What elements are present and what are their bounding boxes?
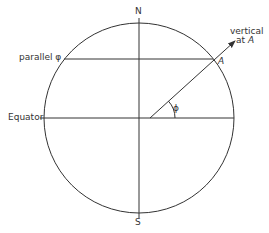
vertical-label-line2: at A [236,35,254,45]
point-a-label: A [218,56,224,66]
vertical-at-a-arrow [150,41,235,118]
vertical-label-point: A [248,35,254,45]
angle-phi-label: ϕ [173,103,179,113]
equator-label: Equator [8,112,43,122]
south-label: S [135,217,141,227]
north-label: N [135,6,142,16]
vertical-label-prefix: at [236,35,248,45]
latitude-diagram: N S parallel φ Equator vertical at A A ϕ [0,0,269,233]
parallel-label: parallel φ [19,52,61,62]
